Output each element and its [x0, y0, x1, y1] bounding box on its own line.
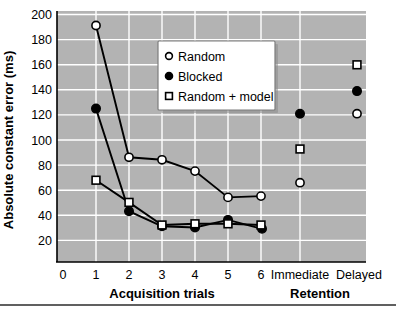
y-tick-140: 140 [31, 83, 52, 97]
point-blocked-immediate [296, 109, 305, 118]
point-random-model-t3 [158, 221, 166, 229]
chart-figure: 200 180 160 140 120 100 80 60 40 20 0 1 … [0, 0, 396, 311]
x-tick-delayed: Delayed [336, 268, 382, 282]
y-tick-180: 180 [31, 33, 52, 47]
y-tick-40: 40 [38, 209, 52, 223]
point-random-t5 [224, 193, 232, 201]
y-axis-title: Absolute constant error (ms) [1, 51, 16, 229]
y-tick-200: 200 [31, 8, 52, 22]
point-random-t6 [257, 192, 265, 200]
point-random-t1 [92, 21, 100, 29]
y-tick-60: 60 [38, 184, 52, 198]
x-tick-immediate: Immediate [271, 268, 329, 282]
y-tick-120: 120 [31, 108, 52, 122]
legend-marker-open-circle-icon [166, 53, 173, 60]
point-random-model-t4 [191, 220, 199, 228]
legend-label-blocked: Blocked [178, 70, 223, 84]
point-random-model-t2 [125, 199, 133, 207]
point-blocked-t2 [125, 207, 134, 216]
point-random-model-t5 [224, 220, 232, 228]
point-random-t2 [125, 153, 133, 161]
point-random-model-immediate [296, 145, 304, 153]
point-random-immediate [296, 179, 304, 187]
point-random-t3 [158, 156, 166, 164]
point-random-model-t1 [92, 176, 100, 184]
x-tick-6: 6 [258, 268, 265, 282]
point-random-t4 [191, 167, 199, 175]
x-tick-5: 5 [225, 268, 232, 282]
x-tick-3: 3 [159, 268, 166, 282]
point-random-model-delayed [353, 61, 361, 69]
legend-label-random: Random [178, 50, 225, 64]
point-random-model-t6 [257, 221, 265, 229]
x-axis-title-acquisition: Acquisition trials [109, 286, 214, 301]
y-tick-100: 100 [31, 134, 52, 148]
point-random-delayed [353, 110, 361, 118]
point-blocked-t1 [92, 104, 101, 113]
x-axis-title-retention: Retention [290, 286, 350, 301]
y-tick-labels: 200 180 160 140 120 100 80 60 40 20 [31, 8, 52, 248]
x-tick-1: 1 [93, 268, 100, 282]
legend-marker-open-square-icon [166, 93, 173, 100]
x-tick-4: 4 [192, 268, 199, 282]
chart-legend: Random Blocked Random + model [158, 41, 278, 113]
y-tick-80: 80 [38, 159, 52, 173]
legend-label-random-model: Random + model [178, 90, 274, 104]
y-tick-160: 160 [31, 58, 52, 72]
line-chart-svg: 200 180 160 140 120 100 80 60 40 20 0 1 … [0, 0, 396, 311]
x-tick-2: 2 [126, 268, 133, 282]
x-tick-labels: 0 1 2 3 4 5 6 Immediate Delayed [60, 268, 382, 282]
x-tick-0: 0 [60, 268, 67, 282]
legend-marker-filled-circle-icon [165, 72, 172, 79]
y-tick-20: 20 [38, 234, 52, 248]
point-blocked-delayed [353, 87, 362, 96]
